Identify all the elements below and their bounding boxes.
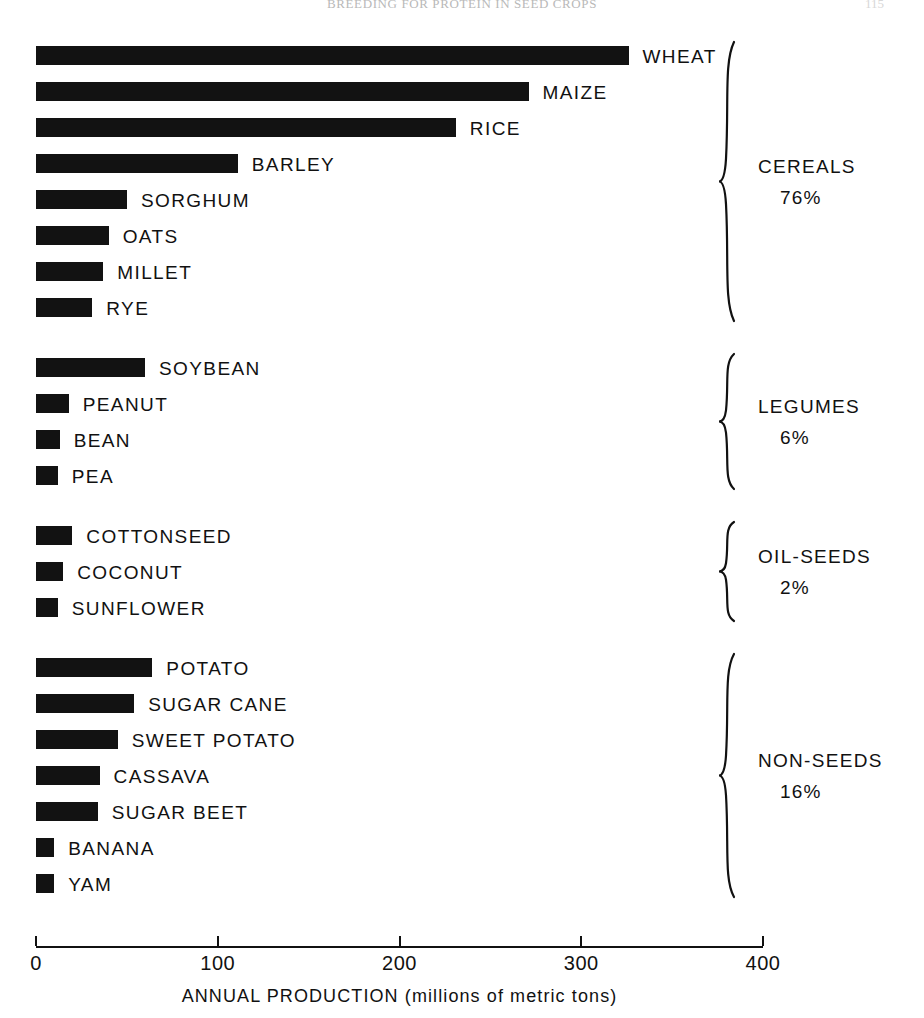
axis-tick-label: 100	[200, 952, 235, 975]
bar-label: CASSAVA	[114, 767, 211, 786]
bar	[36, 358, 145, 377]
group-percent: 6%	[758, 427, 924, 449]
bar	[36, 526, 72, 545]
axis-tick	[35, 936, 37, 946]
bar-label: PEANUT	[83, 395, 168, 414]
bar	[36, 838, 54, 857]
axis-line	[36, 946, 763, 948]
bar	[36, 226, 109, 245]
bar-label: BARLEY	[252, 155, 335, 174]
bar-label: RICE	[470, 119, 521, 138]
axis-tick	[762, 936, 764, 946]
bar	[36, 118, 456, 137]
axis-tick-label: 400	[746, 952, 781, 975]
bar-label: MILLET	[117, 263, 192, 282]
bar	[36, 190, 127, 209]
group-text: OIL-SEEDS2%	[758, 546, 924, 599]
curly-brace-icon	[718, 40, 744, 323]
bar	[36, 466, 58, 485]
group-percent: 2%	[758, 577, 924, 599]
bar-label: MAIZE	[543, 83, 608, 102]
bar-label: SWEET POTATO	[132, 731, 296, 750]
group-name: OIL-SEEDS	[758, 546, 924, 568]
group-name: LEGUMES	[758, 396, 924, 418]
bar-label: BANANA	[68, 839, 155, 858]
bar	[36, 82, 529, 101]
group-percent: 16%	[758, 781, 924, 803]
axis-tick	[580, 936, 582, 946]
bar	[36, 694, 134, 713]
bar	[36, 154, 238, 173]
bar-label: COCONUT	[77, 563, 183, 582]
x-axis-title: ANNUAL PRODUCTION (millions of metric to…	[36, 986, 763, 1007]
bar	[36, 394, 69, 413]
bar-label: PEA	[72, 467, 114, 486]
bar-label: WHEAT	[643, 47, 717, 66]
curly-brace-icon	[718, 652, 744, 899]
bar	[36, 430, 60, 449]
group-text: LEGUMES6%	[758, 396, 924, 449]
bar-label: RYE	[106, 299, 149, 318]
bar-label: COTTONSEED	[86, 527, 232, 546]
bar-label: YAM	[68, 875, 112, 894]
curly-brace-icon	[718, 520, 744, 623]
axis-tick-label: 300	[564, 952, 599, 975]
group-text: NON-SEEDS16%	[758, 750, 924, 803]
bar-label: SOYBEAN	[159, 359, 261, 378]
curly-brace-icon	[718, 352, 744, 491]
bar	[36, 562, 63, 581]
axis-tick-label: 0	[30, 952, 42, 975]
annual-production-bar-chart: WHEATMAIZERICEBARLEYSORGHUMOATSMILLETRYE…	[0, 0, 924, 1018]
group-name: CEREALS	[758, 156, 924, 178]
axis-tick-label: 200	[382, 952, 417, 975]
group-name: NON-SEEDS	[758, 750, 924, 772]
bar	[36, 598, 58, 617]
x-axis: 0100200300400 ANNUAL PRODUCTION (million…	[0, 930, 924, 1018]
axis-tick	[217, 936, 219, 946]
axis-tick	[399, 936, 401, 946]
bar	[36, 874, 54, 893]
bar	[36, 46, 629, 65]
bar-label: SUGAR BEET	[112, 803, 248, 822]
bar	[36, 298, 92, 317]
bar	[36, 658, 152, 677]
bar-label: BEAN	[74, 431, 131, 450]
bar-label: SUNFLOWER	[72, 599, 206, 618]
group-text: CEREALS76%	[758, 156, 924, 209]
group-percent: 76%	[758, 187, 924, 209]
bar-label: OATS	[123, 227, 179, 246]
bar	[36, 730, 118, 749]
bar-label: POTATO	[166, 659, 249, 678]
bar	[36, 262, 103, 281]
bar	[36, 802, 98, 821]
bar-label: SORGHUM	[141, 191, 250, 210]
bar-label: SUGAR CANE	[148, 695, 288, 714]
bar	[36, 766, 100, 785]
